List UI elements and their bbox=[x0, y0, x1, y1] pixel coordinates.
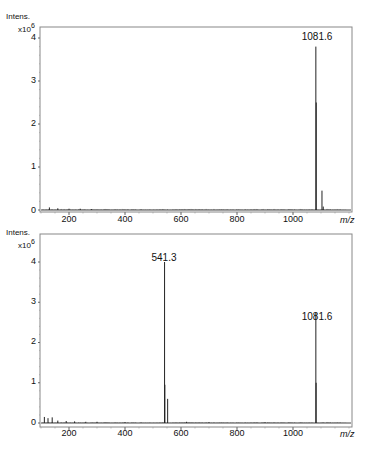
peak-label: 541.3 bbox=[139, 252, 189, 263]
x-tick: 1000 bbox=[273, 214, 313, 224]
peak-label: 1081.6 bbox=[292, 311, 342, 322]
x-tick: 1000 bbox=[273, 428, 313, 438]
x-tick: 400 bbox=[105, 428, 145, 438]
x-tick: 400 bbox=[105, 214, 145, 224]
spectrum-panel-bottom: Intens. x106 4 3 2 1 0 200 400 600 800 1… bbox=[0, 225, 367, 449]
y-axis-label: Intens. bbox=[6, 229, 30, 237]
y-axis-label: Intens. bbox=[6, 13, 30, 21]
x-axis-label: m/z bbox=[340, 429, 355, 439]
x-tick: 200 bbox=[49, 214, 89, 224]
y-tick: 1 bbox=[24, 161, 36, 171]
y-tick: 4 bbox=[24, 32, 36, 42]
y-tick: 3 bbox=[24, 296, 36, 306]
x-tick: 800 bbox=[217, 428, 257, 438]
y-tick: 2 bbox=[24, 336, 36, 346]
y-axis-scale: x106 bbox=[18, 238, 35, 250]
x-tick: 800 bbox=[217, 214, 257, 224]
y-tick: 0 bbox=[24, 417, 36, 427]
y-tick: 0 bbox=[24, 205, 36, 215]
spectrum-panel-top: Intens. x106 4 3 2 1 0 200 400 600 800 1… bbox=[0, 0, 367, 225]
y-tick: 3 bbox=[24, 75, 36, 85]
x-tick: 200 bbox=[49, 428, 89, 438]
y-tick: 1 bbox=[24, 376, 36, 386]
x-tick: 600 bbox=[161, 214, 201, 224]
y-tick: 4 bbox=[24, 256, 36, 266]
x-axis-label: m/z bbox=[340, 215, 355, 225]
x-tick: 600 bbox=[161, 428, 201, 438]
y-tick: 2 bbox=[24, 118, 36, 128]
peak-label: 1081.6 bbox=[292, 31, 342, 42]
